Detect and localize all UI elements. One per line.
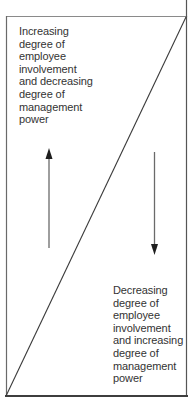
management-power-label: Decreasing degree of employee involvemen…	[113, 284, 185, 385]
up-arrow-icon	[46, 148, 53, 248]
down-arrow-icon	[151, 152, 158, 255]
employee-involvement-label: Increasing degree of employee involvemen…	[19, 25, 109, 126]
diagram-canvas: Increasing degree of employee involvemen…	[0, 0, 194, 401]
